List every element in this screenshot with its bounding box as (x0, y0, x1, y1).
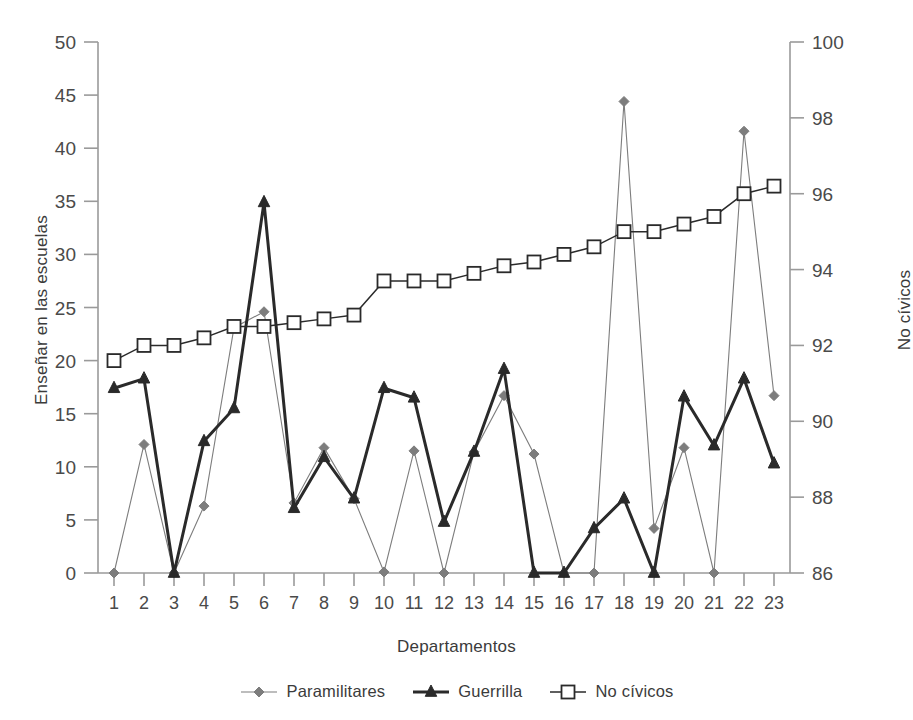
triangle-marker (648, 566, 659, 577)
square-marker (378, 274, 391, 287)
y-axis-left-tick-label: 10 (55, 457, 76, 478)
x-axis-tick-label: 15 (524, 593, 544, 613)
y-axis-right-tick-label: 90 (812, 411, 833, 432)
y-axis-left-tick-label: 40 (55, 138, 76, 159)
diamond-marker (239, 683, 279, 701)
y-axis-right-tick-label: 88 (812, 487, 833, 508)
x-axis-tick-label: 23 (764, 593, 784, 613)
diamond-marker (139, 439, 149, 449)
square-marker (588, 240, 601, 253)
diamond-marker (769, 391, 779, 401)
x-axis-tick-label: 12 (434, 593, 454, 613)
x-axis-tick-label: 8 (319, 593, 329, 613)
square-marker (408, 274, 421, 287)
triangle-marker (498, 362, 509, 373)
y-axis-left-tick-label: 0 (65, 563, 76, 584)
triangle-marker (768, 457, 779, 468)
chart-plot-area: 0510152025303540455086889092949698100123… (0, 0, 913, 720)
square-marker (558, 248, 571, 261)
y-axis-right-tick-label: 96 (812, 184, 833, 205)
x-axis-tick-label: 11 (405, 593, 424, 613)
square-marker (288, 316, 301, 329)
chart-figure: 0510152025303540455086889092949698100123… (0, 0, 913, 720)
legend-label: Paramilitares (286, 682, 385, 701)
y-axis-left-tick-label: 45 (55, 85, 76, 106)
square-marker (258, 320, 271, 333)
square-marker (648, 225, 661, 238)
diamond-marker (679, 443, 689, 453)
x-axis-tick-label: 17 (584, 593, 604, 613)
series-no-cívicos (108, 180, 781, 367)
y-axis-left-tick-label: 5 (65, 510, 76, 531)
diamond-marker (709, 568, 719, 578)
square-marker (468, 267, 481, 280)
y-axis-right-tick-label: 100 (812, 32, 844, 53)
diamond-marker (409, 446, 419, 456)
square-marker (228, 320, 241, 333)
y-axis-left-tick-label: 35 (55, 191, 76, 212)
y-axis-left-title: Enseñar en las escuelas (32, 180, 52, 440)
x-axis-title: Departamentos (0, 637, 913, 657)
square-marker (528, 255, 541, 268)
y-axis-left-tick-label: 30 (55, 244, 76, 265)
triangle-marker (411, 683, 451, 701)
x-axis-tick-label: 1 (109, 593, 119, 613)
y-axis-left-tick-label: 15 (55, 404, 76, 425)
triangle-marker (678, 390, 689, 401)
diamond-marker (619, 96, 629, 106)
series-line (114, 186, 774, 360)
triangle-marker (438, 515, 449, 526)
legend-label: No cívicos (595, 682, 673, 701)
diamond-marker (109, 568, 119, 578)
diamond-marker (254, 687, 264, 697)
x-axis-tick-label: 21 (704, 593, 724, 613)
square-marker (562, 685, 575, 698)
x-axis-tick-label: 6 (259, 593, 269, 613)
y-axis-right-tick-label: 86 (812, 563, 833, 584)
square-marker (348, 309, 361, 322)
square-marker (498, 259, 511, 272)
x-axis-tick-label: 3 (169, 593, 179, 613)
x-axis-tick-label: 2 (139, 593, 149, 613)
diamond-marker (649, 523, 659, 533)
data-series-group (108, 96, 781, 578)
x-axis-tick-label: 5 (229, 593, 239, 613)
x-axis-tick-label: 18 (614, 593, 634, 613)
y-axis-left-tick-label: 25 (55, 298, 76, 319)
diamond-marker (589, 568, 599, 578)
y-axis-right-tick-label: 94 (812, 260, 834, 281)
x-axis-tick-label: 20 (674, 593, 694, 613)
x-axis-tick-label: 19 (644, 593, 664, 613)
y-axis-left-tick-label: 20 (55, 351, 76, 372)
diamond-marker (259, 307, 269, 317)
y-axis-right-tick-label: 98 (812, 108, 833, 129)
x-axis-tick-label: 14 (494, 593, 514, 613)
legend-item-guerrilla[interactable]: Guerrilla (411, 682, 522, 701)
chart-legend: ParamilitaresGuerrillaNo cívicos (0, 682, 913, 701)
diamond-marker (739, 126, 749, 136)
square-marker (138, 339, 151, 352)
triangle-marker (258, 195, 269, 206)
square-marker (768, 180, 781, 193)
y-axis-left-tick-label: 50 (55, 32, 76, 53)
triangle-marker (618, 492, 629, 503)
triangle-marker (228, 401, 239, 412)
legend-label: Guerrilla (458, 682, 522, 701)
series-line (114, 101, 774, 573)
square-marker (738, 187, 751, 200)
diamond-marker (199, 501, 209, 511)
legend-item-no-cívicos[interactable]: No cívicos (548, 682, 673, 701)
triangle-marker (738, 372, 749, 383)
x-axis-tick-label: 13 (464, 593, 484, 613)
square-marker (198, 331, 211, 344)
x-axis-tick-label: 9 (349, 593, 359, 613)
square-marker (708, 210, 721, 223)
square-marker (548, 683, 588, 701)
x-axis-tick-label: 22 (734, 593, 754, 613)
square-marker (318, 312, 331, 325)
diamond-marker (379, 567, 389, 577)
square-marker (108, 354, 121, 367)
diamond-marker (439, 568, 449, 578)
x-axis-tick-label: 4 (199, 593, 209, 613)
legend-item-paramilitares[interactable]: Paramilitares (239, 682, 385, 701)
